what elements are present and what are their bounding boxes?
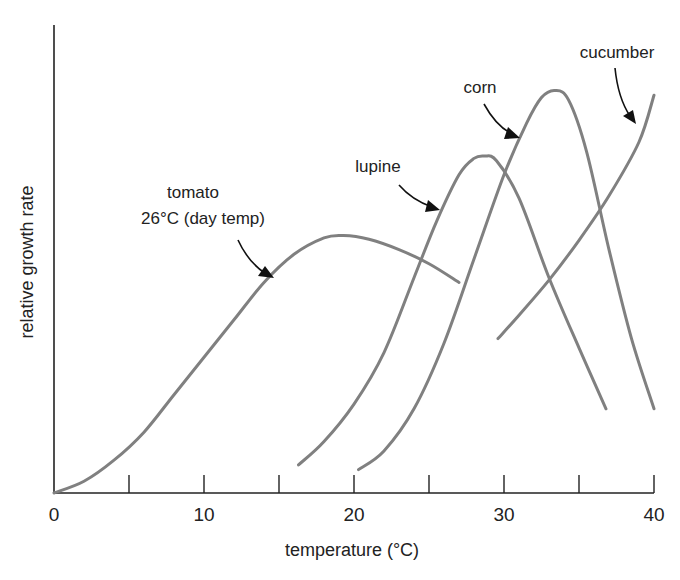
- annotation-tomato-arrow: [238, 240, 266, 274]
- annotation-tomato-line2: 26°C (day temp): [141, 209, 265, 228]
- x-tick-label-30: 30: [493, 504, 514, 525]
- series-lupine-curve: [299, 156, 607, 465]
- annotation-corn-text: corn: [463, 78, 496, 97]
- annotation-cucumber-arrow: [615, 68, 630, 116]
- x-tick-label-10: 10: [193, 504, 214, 525]
- annotation-lupine-arrow: [399, 185, 432, 207]
- annotation-lupine: lupine: [355, 157, 440, 212]
- x-tick-labels: 010203040: [49, 504, 665, 525]
- series-curves: [54, 90, 654, 493]
- annotation-cucumber-text: cucumber: [580, 43, 655, 62]
- x-tick-label-0: 0: [49, 504, 60, 525]
- y-axis-label: relative growth rate: [17, 185, 37, 338]
- annotation-cucumber-arrowhead: [623, 110, 636, 124]
- annotation-corn: corn: [463, 78, 520, 139]
- x-tick-label-40: 40: [643, 504, 664, 525]
- annotation-lupine-arrowhead: [425, 200, 440, 212]
- x-axis-label: temperature (°C): [285, 540, 419, 560]
- annotation-cucumber: cucumber: [580, 43, 655, 124]
- series-corn-curve: [359, 90, 655, 469]
- chart: 010203040 temperature (°C) relative grow…: [0, 0, 680, 580]
- annotation-tomato-arrowhead: [258, 266, 274, 278]
- series-tomato-curve: [54, 235, 459, 493]
- x-tick-label-20: 20: [343, 504, 364, 525]
- x-ticks: [129, 475, 654, 493]
- annotation-lupine-text: lupine: [355, 157, 400, 176]
- annotation-tomato: tomato 26°C (day temp): [141, 183, 274, 278]
- annotation-corn-arrowhead: [504, 127, 520, 139]
- annotation-tomato-line1: tomato: [167, 183, 219, 202]
